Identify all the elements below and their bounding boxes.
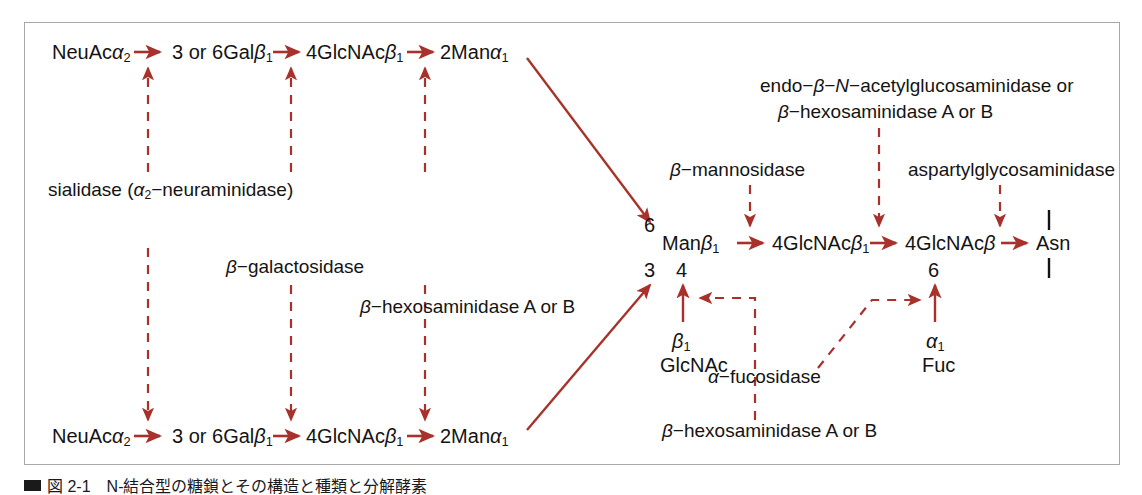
- figure-caption: 図 2-1 N-結合型の糖鎖とその構造と種類と分解酵素: [24, 477, 427, 495]
- enzyme-label-hexosaminidase-bottom: β−hexosaminidase A or B: [662, 421, 877, 440]
- enzyme-label-fucosidase: α−fucosidase: [708, 367, 821, 386]
- node-bottom-glcnac: 4GlcNAcβ1: [306, 426, 403, 446]
- node-bisecting-link: β1: [672, 331, 691, 351]
- node-top-man: 2Manα1: [440, 42, 509, 62]
- node-core-man: Manβ1: [662, 233, 719, 253]
- linkage-number-6-upper: 6: [644, 215, 655, 235]
- enzyme-label-endo-line1: endo−β−N−acetylglucosaminidase or: [760, 76, 1074, 95]
- node-core-asn: Asn: [1036, 233, 1070, 253]
- linkage-number-3-lower: 3: [644, 260, 655, 280]
- enzyme-label-aspartylglycosaminidase: aspartylglycosaminidase: [908, 160, 1115, 179]
- enzyme-label-sialidase: sialidase (α2−neuraminidase): [48, 180, 293, 199]
- enzyme-label-mannosidase: β−mannosidase: [670, 160, 805, 179]
- node-core-glcnac2: 4GlcNAcβ: [905, 233, 995, 253]
- node-fucose-link: α1: [926, 331, 945, 351]
- linkage-number-6-fuc: 6: [928, 260, 939, 280]
- caption-marker: [24, 480, 41, 491]
- enzyme-label-endo-line2: β−hexosaminidase A or B: [778, 102, 993, 121]
- enzyme-label-galactosidase: β−galactosidase: [226, 257, 364, 276]
- node-bottom-neuac: NeuAcα2: [52, 426, 131, 446]
- linkage-number-4-bisect: 4: [676, 260, 687, 280]
- node-core-glcnac1: 4GlcNAcβ1: [772, 233, 869, 253]
- node-bottom-man: 2Manα1: [440, 426, 509, 446]
- node-top-gal: 3 or 6Galβ1: [172, 42, 273, 62]
- node-bottom-gal: 3 or 6Galβ1: [172, 426, 273, 446]
- caption-text: 図 2-1 N-結合型の糖鎖とその構造と種類と分解酵素: [47, 478, 427, 495]
- node-top-glcnac: 4GlcNAcβ1: [306, 42, 403, 62]
- node-fucose: Fuc: [922, 355, 955, 375]
- enzyme-label-hexosaminidase-left: β−hexosaminidase A or B: [360, 297, 575, 316]
- node-top-neuac: NeuAcα2: [52, 42, 131, 62]
- figure-root: NeuAcα2 3 or 6Galβ1 4GlcNAcβ1 2Manα1 Neu…: [0, 0, 1142, 495]
